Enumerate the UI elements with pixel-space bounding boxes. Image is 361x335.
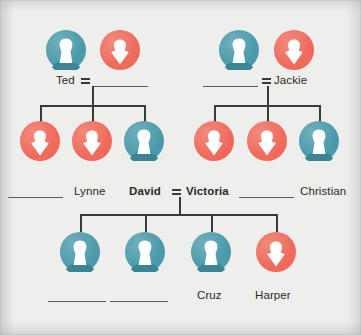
- edge-shade-top: [0, 0, 361, 12]
- connector-drop-child-l1: [40, 105, 42, 122]
- label-victoria: Victoria: [186, 185, 229, 198]
- female-person-icon: [247, 121, 287, 161]
- person-node-cruz[interactable]: [191, 232, 231, 272]
- family-tree-diagram: Ted Jackie: [0, 0, 361, 335]
- connector-drop-christian: [319, 105, 321, 122]
- connector-drop-harper: [276, 214, 278, 232]
- person-node-harper[interactable]: [256, 232, 296, 272]
- marriage-symbol-jackie: [262, 78, 271, 84]
- connector-drop-david: [144, 105, 146, 122]
- person-node-jackie[interactable]: [274, 30, 314, 70]
- blank-child-b2[interactable]: [110, 300, 168, 302]
- male-person-icon: [46, 30, 86, 70]
- person-node-jackie-spouse[interactable]: [219, 30, 259, 70]
- person-node-lynne[interactable]: [72, 121, 112, 161]
- blank-ted-spouse[interactable]: [93, 85, 148, 87]
- person-node-child-b1[interactable]: [60, 232, 100, 272]
- person-node-ted[interactable]: [46, 30, 86, 70]
- connector-sibling-bar-bottom: [80, 214, 277, 216]
- edge-shade-right: [347, 0, 361, 335]
- blank-child-b1[interactable]: [48, 300, 106, 302]
- label-jackie: Jackie: [274, 74, 307, 87]
- connector-drop-victoria: [214, 105, 216, 122]
- person-node-david[interactable]: [124, 121, 164, 161]
- female-person-icon: [274, 30, 314, 70]
- connector-drop-ted-couple: [92, 86, 94, 106]
- male-person-icon: [60, 232, 100, 272]
- female-person-icon: [256, 232, 296, 272]
- label-harper: Harper: [255, 289, 291, 302]
- person-node-child-l1[interactable]: [20, 121, 60, 161]
- label-cruz: Cruz: [197, 289, 222, 302]
- male-person-icon: [191, 232, 231, 272]
- label-david: David: [129, 185, 161, 198]
- blank-child-r2[interactable]: [239, 196, 294, 198]
- person-node-child-b2[interactable]: [125, 232, 165, 272]
- male-person-icon: [125, 232, 165, 272]
- female-person-icon: [194, 121, 234, 161]
- connector-drop-jackie-couple: [267, 86, 269, 106]
- connector-drop-david-victoria-couple: [179, 197, 181, 215]
- female-person-icon: [72, 121, 112, 161]
- connector-drop-child-b2: [145, 214, 147, 232]
- label-christian: Christian: [300, 185, 346, 198]
- person-node-victoria[interactable]: [194, 121, 234, 161]
- marriage-symbol-david-victoria: [172, 189, 181, 195]
- person-node-child-r2[interactable]: [247, 121, 287, 161]
- label-lynne: Lynne: [74, 185, 105, 198]
- marriage-symbol-ted: [81, 78, 90, 84]
- connector-drop-lynne: [92, 105, 94, 122]
- edge-shade-bottom: [0, 321, 361, 335]
- person-node-ted-spouse[interactable]: [100, 30, 140, 70]
- blank-jackie-spouse[interactable]: [203, 85, 258, 87]
- blank-child-l1[interactable]: [8, 196, 63, 198]
- edge-shade-left: [0, 0, 14, 335]
- female-person-icon: [100, 30, 140, 70]
- connector-drop-cruz: [211, 214, 213, 232]
- male-person-icon: [219, 30, 259, 70]
- male-person-icon: [299, 121, 339, 161]
- connector-drop-child-b1: [80, 214, 82, 232]
- connector-drop-child-r2: [267, 105, 269, 122]
- male-person-icon: [124, 121, 164, 161]
- label-ted: Ted: [56, 74, 75, 87]
- female-person-icon: [20, 121, 60, 161]
- person-node-christian[interactable]: [299, 121, 339, 161]
